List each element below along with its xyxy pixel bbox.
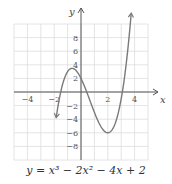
x-tick-label: 2 <box>105 95 110 104</box>
y-axis-label: y <box>68 6 75 17</box>
y-tick-label: −6 <box>66 129 78 138</box>
y-tick-label: 2 <box>73 74 78 83</box>
y-tick-label: 6 <box>73 47 78 56</box>
y-tick-label: −2 <box>66 102 78 111</box>
x-axis-label: x <box>160 94 166 105</box>
equation-caption: y = x³ − 2x² − 4x + 2 <box>0 164 172 177</box>
y-tick-label: 8 <box>73 34 78 43</box>
x-tick-label: 4 <box>132 95 137 104</box>
y-tick-label: −8 <box>66 142 78 151</box>
x-tick-label: −4 <box>22 95 34 104</box>
axes <box>14 8 158 160</box>
y-tick-label: −4 <box>66 115 78 124</box>
function-graph: −4−2248642−2−4−6−8 x y <box>0 0 172 184</box>
